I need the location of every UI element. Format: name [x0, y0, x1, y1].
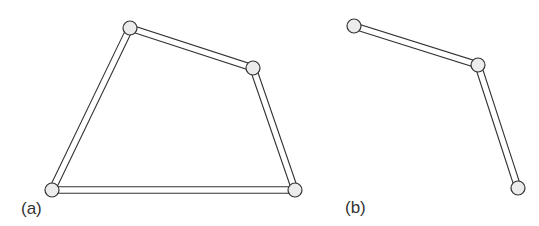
panel-a-label: (a): [21, 199, 42, 219]
link-bar: [52, 187, 295, 193]
joint-circle-icon: [347, 19, 361, 33]
joint-circle-icon: [471, 58, 485, 72]
link-bar: [49, 27, 133, 192]
joint-circle-icon: [123, 21, 137, 35]
joint-circle-icon: [246, 61, 260, 75]
joint-circle-icon: [45, 183, 59, 197]
panel-b: [347, 19, 525, 195]
panel-a: [45, 21, 302, 197]
link-bar: [475, 64, 521, 189]
panel-b-label: (b): [345, 198, 366, 218]
link-bar: [353, 23, 479, 68]
link-bar: [129, 25, 254, 71]
link-bar: [250, 67, 298, 191]
joint-circle-icon: [288, 183, 302, 197]
linkage-diagram: [0, 0, 539, 226]
joint-circle-icon: [511, 181, 525, 195]
